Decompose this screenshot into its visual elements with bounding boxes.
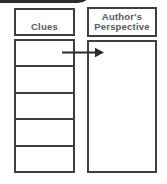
clues-cell-stack — [14, 39, 75, 173]
clues-cell-2 — [16, 67, 73, 93]
right-arrow-icon — [62, 47, 104, 58]
perspective-body-box — [87, 40, 157, 173]
clues-cell-4 — [16, 120, 73, 146]
clues-header-box: Clues — [14, 8, 75, 36]
perspective-header-line2: Perspective — [94, 22, 150, 32]
worksheet-diagram: Clues Author's Perspective — [0, 0, 167, 184]
perspective-header-box: Author's Perspective — [87, 7, 157, 37]
cropped-dark-tab — [0, 0, 92, 3]
clues-cell-5 — [16, 147, 73, 171]
clues-cell-3 — [16, 94, 73, 120]
clues-header-label: Clues — [31, 21, 58, 32]
